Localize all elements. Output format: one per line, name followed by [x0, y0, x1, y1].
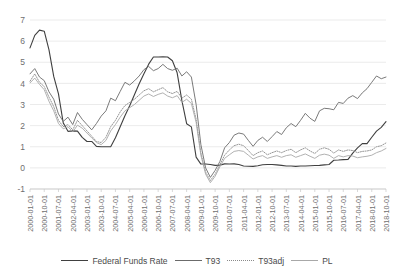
x-axis-tick-label: 2002-04-01	[69, 195, 78, 232]
x-axis-tick-label: 2015-01-01	[311, 195, 320, 232]
x-axis-tick-label: 2009-10-01	[211, 195, 220, 232]
x-axis-tick-label: 2018-01-01	[368, 195, 377, 232]
x-axis-tick-label: 2010-07-01	[225, 195, 234, 232]
legend-entry-federal-funds-rate[interactable]: Federal Funds Rate	[61, 257, 167, 266]
x-axis-tick-label: 2000-10-01	[40, 195, 49, 232]
x-axis-tick-label: 2000-01-01	[26, 195, 35, 232]
series-line-pl	[30, 78, 386, 183]
y-axis-tick-label: 5	[20, 57, 25, 67]
legend-entry-t93adj[interactable]: T93adj	[227, 257, 284, 266]
x-axis-tick-label: 2004-07-01	[111, 195, 120, 232]
legend-entry-t93[interactable]: T93	[175, 257, 221, 266]
y-axis-tick-label: 0	[20, 163, 25, 173]
x-axis-tick-marks	[30, 189, 386, 192]
series-line-t93	[30, 64, 386, 177]
x-axis-tick-label: 2006-01-01	[140, 195, 149, 232]
y-axis-tick-label: -1	[17, 184, 25, 194]
x-axis-tick-label: 2003-01-01	[83, 195, 92, 232]
x-axis-tick-labels: 2000-01-012000-10-012001-07-012002-04-01…	[26, 195, 391, 232]
x-axis-tick-label: 2013-07-01	[282, 195, 291, 232]
x-axis-tick-label: 2001-07-01	[54, 195, 63, 232]
legend-swatch-federal-funds-rate	[61, 260, 88, 261]
x-axis-tick-label: 2015-10-01	[325, 195, 334, 232]
legend-label-t93: T93	[206, 257, 221, 266]
gridlines	[30, 20, 386, 189]
y-axis-tick-labels: -101234567	[17, 15, 25, 194]
y-axis-tick-label: 2	[20, 121, 25, 131]
x-axis-tick-label: 2003-10-01	[97, 195, 106, 232]
legend-swatch-t93adj	[227, 260, 254, 261]
series-line-federal-funds-rate	[30, 30, 386, 166]
x-axis-tick-label: 2012-01-01	[254, 195, 263, 232]
x-axis-tick-label: 2014-04-01	[297, 195, 306, 232]
data-series-layer	[30, 30, 386, 183]
x-axis-tick-label: 2005-04-01	[126, 195, 135, 232]
legend-entry-pl[interactable]: PL	[291, 257, 332, 266]
legend-label-federal-funds-rate: Federal Funds Rate	[92, 257, 167, 266]
chart-container: -101234567 2000-01-012000-10-012001-07-0…	[0, 0, 394, 268]
y-axis-tick-label: 3	[20, 100, 25, 110]
y-axis-tick-label: 7	[20, 15, 25, 25]
x-axis-tick-label: 2006-10-01	[154, 195, 163, 232]
y-axis-tick-label: 6	[20, 36, 25, 46]
chart-legend: Federal Funds Rate T93 T93adj PL	[0, 257, 394, 266]
legend-label-pl: PL	[322, 257, 332, 266]
x-axis-tick-label: 2016-07-01	[339, 195, 348, 232]
legend-label-t93adj: T93adj	[258, 257, 284, 266]
y-axis-tick-label: 1	[20, 142, 25, 152]
y-axis-tick-label: 4	[20, 79, 25, 89]
x-axis-tick-label: 2011-04-01	[240, 195, 249, 231]
legend-swatch-pl	[291, 260, 318, 261]
x-axis-tick-label: 2008-04-01	[183, 195, 192, 232]
x-axis-tick-label: 2018-10-01	[382, 195, 391, 232]
x-axis-tick-label: 2007-07-01	[168, 195, 177, 232]
x-axis-tick-label: 2017-04-01	[354, 195, 363, 232]
x-axis-tick-label: 2009-01-01	[197, 195, 206, 232]
line-chart-plot: -101234567 2000-01-012000-10-012001-07-0…	[0, 0, 394, 268]
x-axis-tick-label: 2012-10-01	[268, 195, 277, 232]
legend-swatch-t93	[175, 260, 202, 261]
